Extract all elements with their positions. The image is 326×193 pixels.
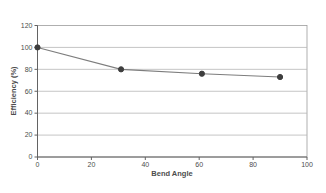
x-tick-label: 60 [195, 161, 203, 168]
x-axis-title: Bend Angle [37, 169, 307, 179]
x-tick-label: 0 [36, 161, 40, 168]
y-tick-label: 0 [29, 153, 33, 160]
chart-svg: 020406080100120020406080100 [0, 0, 326, 193]
data-point [35, 45, 40, 50]
efficiency-vs-bend-angle-chart: 020406080100120020406080100 Bend Angle E… [0, 0, 326, 193]
y-tick-label: 40 [25, 109, 33, 116]
x-tick-label: 100 [301, 161, 313, 168]
y-tick-label: 20 [25, 131, 33, 138]
y-tick-label: 60 [25, 88, 33, 95]
x-tick-label: 40 [141, 161, 149, 168]
data-point [277, 74, 282, 79]
y-tick-label: 120 [21, 22, 33, 29]
y-tick-label: 100 [21, 44, 33, 51]
x-tick-label: 80 [249, 161, 257, 168]
x-tick-label: 20 [88, 161, 96, 168]
data-point [118, 67, 123, 72]
y-tick-label: 80 [25, 66, 33, 73]
y-axis-title: Efficiency (%) [9, 25, 19, 157]
data-point [199, 71, 204, 76]
